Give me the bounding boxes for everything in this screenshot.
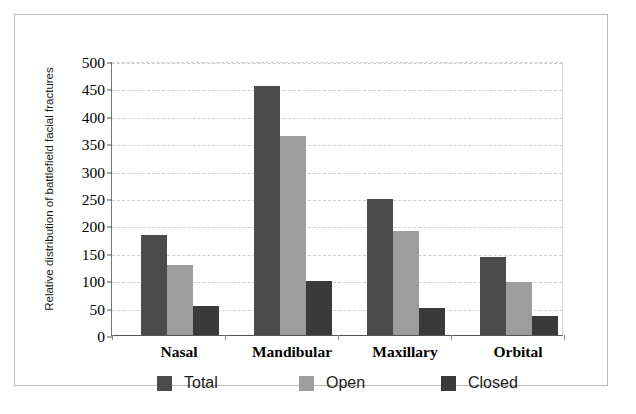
y-axis-tick-mark: [107, 117, 112, 118]
y-axis-tick-mark: [107, 90, 112, 91]
y-axis-tick-label: 200: [82, 218, 105, 236]
y-axis-tick-mark: [107, 309, 112, 310]
y-axis-tick-mark: [107, 172, 112, 173]
bar-mandibular-closed: [306, 281, 332, 335]
legend-swatch-open-icon: [299, 376, 314, 391]
y-axis-tick-label: 400: [82, 109, 105, 127]
gridline: [112, 118, 562, 119]
bar-orbital-open: [506, 282, 532, 335]
bar-nasal-open: [167, 265, 193, 335]
x-axis-label-maxillary: Maxillary: [372, 343, 437, 361]
y-axis-tick-mark: [107, 227, 112, 228]
legend-swatch-total-icon: [157, 376, 172, 391]
gridline: [112, 63, 562, 64]
y-axis-title: Relative distribution of battlefield fac…: [43, 39, 55, 339]
legend-item-closed[interactable]: Closed: [441, 372, 518, 394]
gridline: [112, 200, 562, 201]
bar-nasal-total: [141, 235, 167, 335]
bar-maxillary-open: [393, 231, 419, 335]
y-axis-tick-label: 500: [82, 54, 105, 72]
bar-orbital-total: [480, 257, 506, 335]
x-axis-tick-mark: [564, 335, 565, 340]
legend-item-total[interactable]: Total: [157, 372, 218, 394]
y-axis-tick-mark: [107, 200, 112, 201]
y-axis-tick-label: 300: [82, 164, 105, 182]
y-axis-tick-label: 0: [97, 328, 105, 346]
y-axis-tick-label: 50: [90, 301, 106, 319]
legend-label-total: Total: [184, 374, 218, 392]
bar-orbital-closed: [532, 316, 558, 335]
y-axis-tick-label: 100: [82, 273, 105, 291]
gridline: [112, 145, 562, 146]
y-axis-tick-label: 450: [82, 81, 105, 99]
figure-frame-border: Relative distribution of battlefield fac…: [14, 14, 608, 386]
x-axis-tick-mark: [225, 335, 226, 340]
y-axis-tick-label: 350: [82, 136, 105, 154]
y-axis-tick-label: 250: [82, 191, 105, 209]
bar-maxillary-closed: [419, 308, 445, 335]
bar-maxillary-total: [367, 199, 393, 335]
gridline: [112, 173, 562, 174]
y-axis-tick-mark: [107, 145, 112, 146]
legend-label-closed: Closed: [468, 374, 518, 392]
gridline: [112, 255, 562, 256]
chart-legend: TotalOpenClosed: [111, 372, 563, 394]
legend-label-open: Open: [326, 374, 365, 392]
plot-area: 050100150200250300350400450500: [111, 62, 563, 336]
bar-mandibular-total: [254, 86, 280, 335]
y-axis-tick-mark: [107, 254, 112, 255]
x-axis-label-mandibular: Mandibular: [252, 343, 332, 361]
legend-item-open[interactable]: Open: [299, 372, 365, 394]
gridline: [112, 227, 562, 228]
y-axis-tick-label: 150: [82, 246, 105, 264]
bar-nasal-closed: [193, 306, 219, 335]
gridline: [112, 90, 562, 91]
chart-figure: Relative distribution of battlefield fac…: [0, 0, 636, 414]
x-axis-tick-mark: [112, 335, 113, 340]
bar-mandibular-open: [280, 136, 306, 335]
y-axis-tick-mark: [107, 282, 112, 283]
legend-swatch-closed-icon: [441, 376, 456, 391]
y-axis-tick-mark: [107, 63, 112, 64]
x-axis-label-orbital: Orbital: [493, 343, 542, 361]
x-axis-tick-mark: [338, 335, 339, 340]
x-axis-label-nasal: Nasal: [160, 343, 197, 361]
x-axis-tick-mark: [451, 335, 452, 340]
